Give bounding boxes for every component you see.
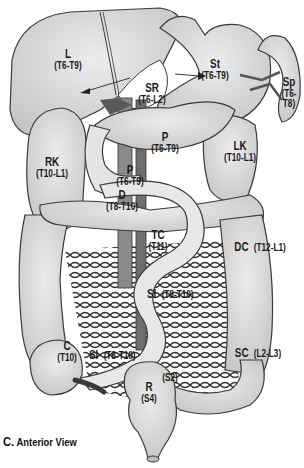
label-liver: L (T6-T9) (52, 48, 85, 71)
anus (147, 456, 159, 462)
label-rectum-upper: (S2) (159, 373, 182, 384)
label-small-intestine-low: SI (T8-T10) (89, 346, 135, 363)
label-descending-colon: DC (T12-L1) (226, 238, 295, 255)
label-left-kidney: LK (T10-L1) (222, 140, 258, 163)
label-pancreas-body: P (T6-T9) (147, 131, 183, 154)
label-small-intestine-mid: SI (T8-T10) (147, 285, 193, 302)
label-rectum: R (S4) (137, 381, 162, 404)
label-pancreas-head: P (T6-T9) (114, 164, 147, 187)
figure-caption: C.Anterior View (3, 434, 77, 449)
label-stomach: St (T6-T9) (199, 58, 232, 81)
label-transverse-colon: TC (T11) (146, 229, 171, 252)
label-sigmoid-colon: SC (L2-L3) (228, 344, 287, 361)
label-cecum: C (T10) (55, 340, 80, 363)
caption-letter: C. (3, 434, 14, 449)
label-suprarenal: SR (T6-L2) (133, 82, 171, 105)
label-right-kidney: RK (T10-L1) (34, 156, 70, 179)
caption-text: Anterior View (17, 436, 77, 448)
label-duodenum: D (T8-T10) (104, 189, 140, 212)
label-spleen: Sp (T6- T8) (278, 76, 299, 110)
